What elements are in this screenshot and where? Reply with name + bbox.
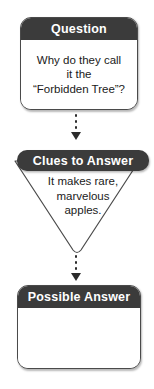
connector-dot <box>75 267 78 270</box>
connector-clues-to-answer <box>71 255 81 281</box>
clues-body: It makes rare, marvelous apples. <box>26 174 140 218</box>
connector-dot <box>75 261 78 264</box>
clues-body-text: It makes rare, marvelous apples. <box>26 174 140 218</box>
clues-node: Clues to Answer It makes rare, marvelous… <box>6 150 148 256</box>
possible-answer-node: Possible Answer <box>17 285 141 369</box>
connector-dot <box>75 126 78 129</box>
possible-answer-header: Possible Answer <box>18 286 140 308</box>
possible-answer-body[interactable] <box>18 308 140 368</box>
clues-header: Clues to Answer <box>17 150 149 171</box>
connector-question-to-clues <box>71 114 81 140</box>
question-body: Why do they call it the “Forbidden Tree”… <box>21 40 137 109</box>
arrowhead-down-icon <box>71 132 81 140</box>
question-header: Question <box>21 18 137 40</box>
connector-dot <box>75 255 78 258</box>
question-node: Question Why do they call it the “Forbid… <box>20 17 138 110</box>
connector-dot <box>75 120 78 123</box>
question-body-text: Why do they call it the “Forbidden Tree”… <box>33 53 125 97</box>
arrowhead-down-icon <box>71 273 81 281</box>
connector-dot <box>75 114 78 117</box>
